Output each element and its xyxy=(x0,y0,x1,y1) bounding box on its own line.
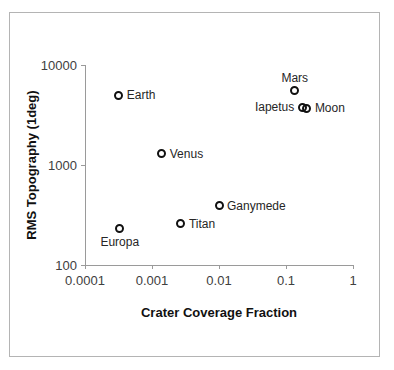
data-point-label: Iapetus xyxy=(255,100,294,114)
x-tick-label: 0.001 xyxy=(136,273,169,288)
data-point-label: Ganymede xyxy=(227,199,286,213)
x-tick-mark xyxy=(353,265,354,269)
chart-figure: RMS Topography (1deg) Crater Coverage Fr… xyxy=(9,12,380,357)
x-tick-label: 0.01 xyxy=(206,273,231,288)
plot-area: 100100010000 0.00010.0010.010.11 EarthVe… xyxy=(85,65,353,265)
data-point-label: Titan xyxy=(189,217,215,231)
x-tick-label: 1 xyxy=(349,273,356,288)
x-tick-mark xyxy=(85,265,86,269)
data-point-marker[interactable] xyxy=(302,104,311,113)
y-tick-label: 100 xyxy=(55,258,77,273)
x-tick-label: 0.1 xyxy=(277,273,295,288)
data-point-marker[interactable] xyxy=(157,149,166,158)
y-tick-label: 10000 xyxy=(41,58,77,73)
data-point-label: Venus xyxy=(170,147,203,161)
x-axis-title: Crater Coverage Fraction xyxy=(85,305,353,320)
data-point-label: Earth xyxy=(127,88,156,102)
x-tick-label: 0.0001 xyxy=(65,273,105,288)
y-axis-line xyxy=(85,65,86,265)
data-point-label: Mars xyxy=(281,71,308,85)
data-point-marker[interactable] xyxy=(290,86,299,95)
x-tick-mark xyxy=(219,265,220,269)
y-tick-label: 1000 xyxy=(48,158,77,173)
data-point-marker[interactable] xyxy=(176,219,185,228)
x-tick-mark xyxy=(152,265,153,269)
y-tick-mark xyxy=(81,165,85,166)
data-point-marker[interactable] xyxy=(114,91,123,100)
data-point-marker[interactable] xyxy=(115,224,124,233)
y-axis-title: RMS Topography (1deg) xyxy=(24,65,40,265)
data-point-label: Moon xyxy=(315,101,345,115)
data-point-label: Europa xyxy=(100,235,139,249)
x-tick-mark xyxy=(286,265,287,269)
y-tick-mark xyxy=(81,65,85,66)
data-point-marker[interactable] xyxy=(215,201,224,210)
